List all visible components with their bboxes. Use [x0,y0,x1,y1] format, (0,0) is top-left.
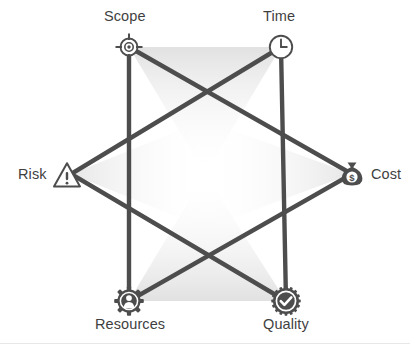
clock-icon [266,32,296,62]
node-label-quality: Quality [263,316,309,332]
crosshair-target-icon [114,32,144,62]
svg-text:$: $ [349,172,355,183]
star-point-shading [71,47,352,301]
money-bag-icon: $ [337,159,367,189]
quality-check-badge-icon [271,286,301,316]
bottom-divider [0,343,410,344]
gear-person-icon [114,286,144,316]
warning-triangle-icon [52,160,82,190]
node-label-time: Time [263,8,295,24]
diagram-canvas: Scope Time $ Cost [0,0,410,351]
node-label-cost: Cost [371,166,401,182]
node-label-resources: Resources [95,316,165,332]
node-label-scope: Scope [104,8,146,24]
node-label-risk: Risk [18,166,47,182]
